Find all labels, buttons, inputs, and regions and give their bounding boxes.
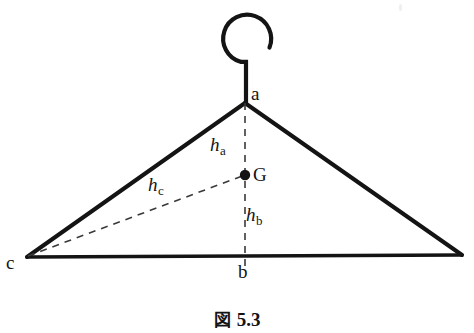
- hanger-diagram-svg: [0, 0, 474, 333]
- triangle-left-side: [27, 103, 245, 257]
- distance-ha-base: h: [210, 134, 220, 155]
- centroid-label-g: G: [253, 165, 267, 184]
- figure-container: a b c G ha hb hc 図5.3: [0, 0, 474, 333]
- distance-label-hc: hc: [148, 175, 164, 197]
- vertex-label-b: b: [238, 262, 248, 281]
- distance-hc-base: h: [148, 174, 158, 195]
- centroid-dot: [240, 170, 250, 180]
- distance-hb-base: h: [246, 204, 256, 225]
- triangle-base-side: [27, 255, 462, 257]
- triangle-right-side: [245, 103, 462, 255]
- caption-number: 5.3: [237, 309, 261, 330]
- caption-kanji: 図: [214, 310, 231, 330]
- hook-arc-icon: [223, 15, 271, 62]
- distance-label-hb: hb: [246, 205, 262, 227]
- scan-artifact-speck: [399, 4, 402, 11]
- figure-caption: 図5.3: [0, 306, 474, 331]
- distance-ha-sub: a: [220, 143, 226, 158]
- vertex-label-a: a: [251, 84, 259, 103]
- dashed-median-cg: [28, 175, 245, 256]
- hook-stem: [241, 62, 247, 103]
- distance-hc-sub: c: [158, 183, 164, 198]
- vertex-label-c: c: [6, 253, 14, 272]
- distance-label-ha: ha: [210, 135, 226, 157]
- distance-hb-sub: b: [256, 213, 263, 228]
